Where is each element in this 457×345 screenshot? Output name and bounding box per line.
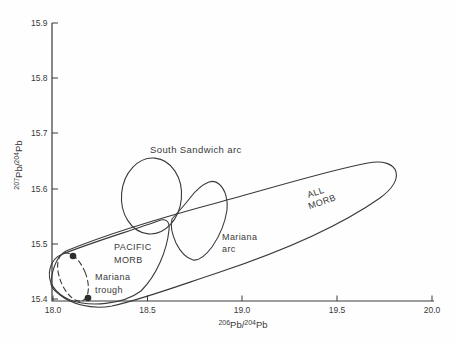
south-sandwich-arc-field-outline <box>118 156 184 237</box>
pacific-morb-label-line2: MORB <box>114 255 143 265</box>
mariana-trough-label-line1: Mariana <box>95 272 130 282</box>
chart-canvas: 15.9 15.8 15.7 15.6 15.5 15.4 18.0 18.5 … <box>0 0 457 345</box>
x-tick-label: 18.5 <box>139 305 156 315</box>
x-tick-label: 19.0 <box>234 305 251 315</box>
x-axis-title: 206Pb/204Pb <box>218 319 267 330</box>
mariana-arc-label-line1: Mariana <box>222 232 257 242</box>
y-tick-label: 15.5 <box>31 239 48 249</box>
y-tick-label: 15.8 <box>31 73 48 83</box>
y-tick-label: 15.4 <box>31 294 48 304</box>
x-tick-label: 19.5 <box>329 305 346 315</box>
all-morb-label: ALL MORB <box>303 182 337 211</box>
y-tick-label: 15.6 <box>31 184 48 194</box>
data-point <box>85 295 92 302</box>
y-tick-label: 15.7 <box>31 128 48 138</box>
x-tick-label: 18.0 <box>45 305 62 315</box>
mariana-arc-label-line2: arc <box>222 244 236 254</box>
y-axis-title: 207Pb/204Pb <box>13 140 24 189</box>
mariana-trough-label-line2: trough <box>95 285 123 295</box>
pacific-morb-label-line1: PACIFIC <box>114 242 152 252</box>
y-tick-label: 15.9 <box>31 18 48 28</box>
mariana-arc-field-outline <box>171 181 227 260</box>
south-sandwich-arc-label: South Sandwich arc <box>150 144 242 155</box>
x-tick-label: 20.0 <box>424 305 441 315</box>
lead-isotope-field-chart: 15.9 15.8 15.7 15.6 15.5 15.4 18.0 18.5 … <box>0 0 457 345</box>
data-point <box>70 253 77 260</box>
